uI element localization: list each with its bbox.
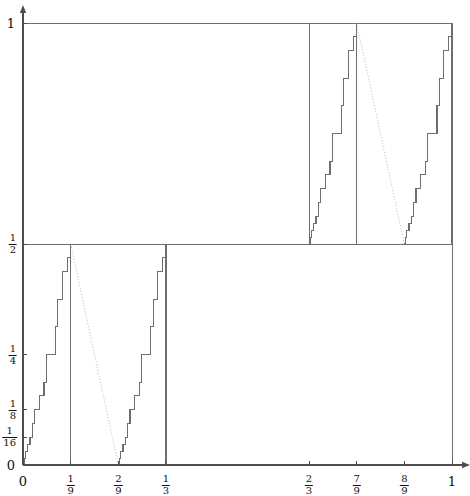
x-tick-label-5: 79 (352, 474, 360, 496)
fraction-numerator: 1 (9, 399, 17, 409)
y-tick-label-0: 0 (7, 458, 15, 473)
x-tick-label-7: 1 (448, 474, 456, 489)
staircase-plot (0, 0, 470, 496)
fraction-numerator: 2 (305, 474, 313, 484)
stair-B-rising (118, 244, 166, 465)
stair-C-rising (309, 23, 357, 244)
stair-D-rising (404, 23, 452, 244)
upper-right-diagonal (357, 23, 405, 244)
x-tick-label-2: 29 (114, 474, 122, 496)
y-tick-label-3: 14 (9, 344, 17, 366)
x-tick-label-1: 19 (66, 474, 74, 496)
y-tick-label-5: 1 (7, 16, 15, 31)
lower-left-diagonal (71, 244, 119, 465)
fraction-denominator: 4 (9, 355, 17, 366)
y-tick-label-4: 12 (9, 233, 17, 255)
y-tick-label-2: 18 (9, 399, 17, 421)
fraction-numerator: 1 (162, 474, 170, 484)
fraction-denominator: 3 (162, 485, 170, 496)
fraction-denominator: 9 (352, 485, 360, 496)
figure-root: 0192913237989101161814121 (0, 0, 470, 496)
fraction-numerator: 1 (66, 474, 74, 484)
fraction-numerator: 8 (400, 474, 408, 484)
x-axis-arrow (462, 462, 470, 468)
fraction-denominator: 8 (9, 410, 17, 421)
fraction-denominator: 2 (9, 244, 17, 255)
y-tick-label-1: 116 (2, 426, 17, 448)
fraction-denominator: 9 (400, 485, 408, 496)
fraction-numerator: 1 (9, 344, 17, 354)
stair-A-rising (23, 244, 71, 465)
fraction-numerator: 1 (9, 233, 17, 243)
x-tick-label-0: 0 (19, 474, 27, 489)
fraction-denominator: 3 (305, 485, 313, 496)
x-tick-label-4: 23 (305, 474, 313, 496)
fraction-denominator: 9 (114, 485, 122, 496)
x-tick-label-3: 13 (162, 474, 170, 496)
x-tick-label-6: 89 (400, 474, 408, 496)
fraction-numerator: 7 (352, 474, 360, 484)
fraction-denominator: 9 (66, 485, 74, 496)
fraction-numerator: 2 (114, 474, 122, 484)
y-axis-arrow (20, 5, 26, 13)
fraction-denominator: 16 (2, 437, 17, 448)
fraction-numerator: 1 (5, 426, 13, 436)
